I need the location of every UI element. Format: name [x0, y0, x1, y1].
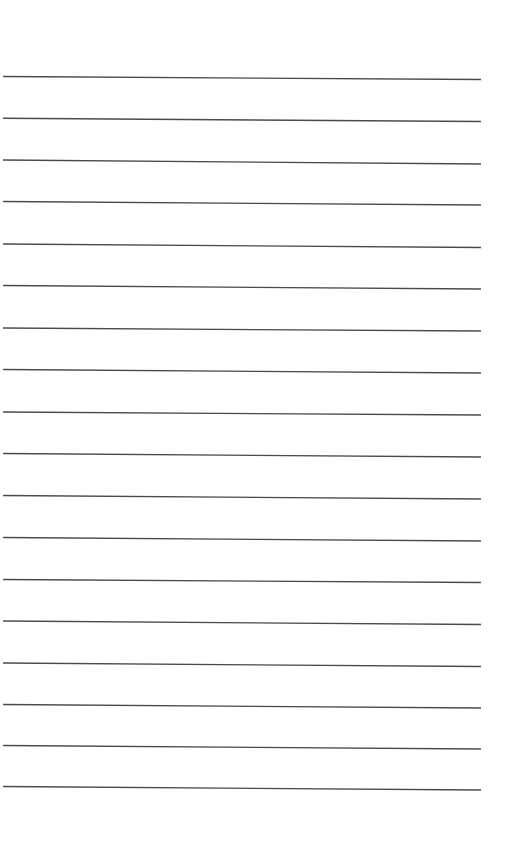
ruled-line	[3, 77, 481, 80]
ruled-line	[3, 370, 481, 374]
ruled-lines	[0, 0, 510, 863]
ruled-line	[3, 412, 481, 415]
ruled-line	[3, 538, 481, 542]
ruled-line	[3, 496, 481, 500]
ruled-line	[3, 705, 481, 709]
ruled-line	[3, 328, 481, 331]
ruled-line	[3, 663, 481, 667]
ruled-line	[3, 118, 481, 121]
lined-paper-page	[0, 0, 510, 863]
ruled-line	[3, 580, 481, 583]
ruled-line	[3, 746, 481, 750]
ruled-line	[3, 286, 481, 290]
ruled-line	[3, 621, 481, 625]
ruled-line	[3, 160, 481, 164]
ruled-line	[3, 454, 481, 458]
ruled-line	[3, 202, 481, 206]
ruled-line	[3, 787, 481, 791]
ruled-line	[3, 244, 481, 248]
